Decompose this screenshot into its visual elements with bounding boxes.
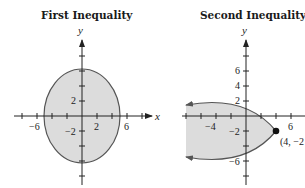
x-tick-label-neg6: −6	[29, 121, 40, 132]
y-tick-label-2: 2	[235, 95, 240, 106]
first-inequality-graph: y x −6 2 6 2 −2	[14, 24, 160, 185]
y-tick-label-neg6: −6	[229, 156, 240, 167]
y-tick-label-2: 2	[71, 95, 76, 106]
second-inequality-graph: y −4 6 6 4 2 −2 −6 (4, −2	[182, 24, 305, 185]
y-tick-label-6: 6	[235, 65, 240, 76]
x-tick-label-2: 2	[94, 121, 99, 132]
vertex-point	[273, 128, 280, 135]
x-axis-label: x	[154, 110, 160, 122]
x-tick-label-6: 6	[288, 121, 293, 132]
x-tick-label-neg4: −4	[205, 121, 216, 132]
x-tick-label-6: 6	[124, 121, 129, 132]
y-axis-label: y	[241, 24, 247, 36]
vertex-label: (4, −2	[280, 136, 304, 148]
y-tick-label-neg2: −2	[65, 126, 76, 137]
y-axis-label: y	[77, 24, 83, 36]
y-tick-label-4: 4	[235, 80, 240, 91]
graphs-canvas: y x −6 2 6 2 −2	[0, 0, 305, 188]
y-tick-label-neg2: −2	[229, 126, 240, 137]
